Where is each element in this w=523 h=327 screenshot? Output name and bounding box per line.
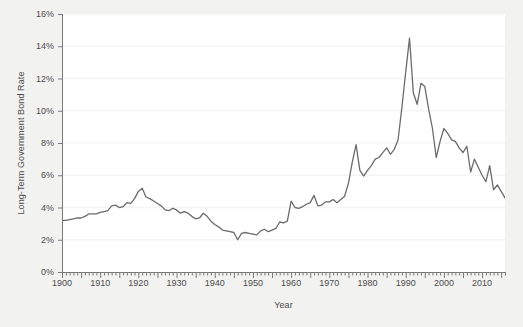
y-tick-label: 2%: [41, 235, 54, 245]
x-tick-label: 1900: [52, 278, 72, 288]
x-tick-label: 1920: [128, 278, 148, 288]
x-tick-label: 1930: [167, 278, 187, 288]
x-tick-label: 1980: [358, 278, 378, 288]
x-tick-label: 1970: [319, 278, 339, 288]
line-chart-svg: [62, 14, 505, 272]
x-tick-label: 1940: [205, 278, 225, 288]
y-tick-label: 0%: [41, 267, 54, 277]
y-tick-label: 16%: [36, 9, 54, 19]
x-axis-title: Year: [62, 300, 505, 310]
data-series-group: [62, 38, 505, 240]
y-axis-title: Long-Term Government Bond Rate: [14, 14, 28, 272]
x-tick-label: 2010: [472, 278, 492, 288]
plot-area: [62, 14, 505, 272]
y-tick-label: 6%: [41, 170, 54, 180]
chart-figure: 0%2%4%6%8%10%12%14%16% 19001910192019301…: [0, 0, 523, 327]
x-tick-label: 1960: [281, 278, 301, 288]
y-tick-label: 4%: [41, 203, 54, 213]
x-tick-label: 1910: [90, 278, 110, 288]
y-tick-label: 12%: [36, 74, 54, 84]
x-tick-label: 2000: [434, 278, 454, 288]
gridlines: [62, 14, 505, 240]
x-tick-label: 1950: [243, 278, 263, 288]
y-tick-label: 8%: [41, 138, 54, 148]
y-tick-label: 14%: [36, 41, 54, 51]
y-axis-tick-labels: 0%2%4%6%8%10%12%14%16%: [0, 0, 56, 327]
x-tick-label: 1990: [396, 278, 416, 288]
y-tick-label: 10%: [36, 106, 54, 116]
